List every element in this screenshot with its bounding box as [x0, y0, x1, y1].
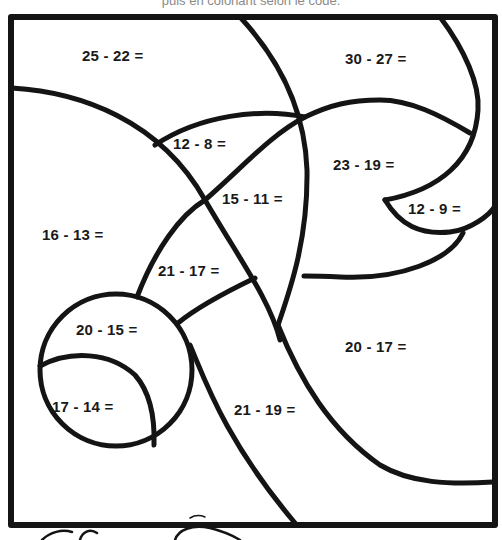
circle-ball	[40, 294, 192, 446]
equation-label: 25 - 22 =	[82, 47, 143, 64]
equation-label: 15 - 11 =	[222, 190, 283, 207]
equation-label: 20 - 15 =	[76, 321, 137, 338]
equation-label: 20 - 17 =	[345, 338, 406, 355]
swoosh-left	[190, 345, 295, 523]
equation-label: 21 - 17 =	[158, 262, 219, 279]
arc-right-loop	[385, 17, 478, 200]
arc-swirl-lower	[304, 233, 463, 277]
divider-21-17	[178, 278, 255, 323]
equation-label: 21 - 19 =	[234, 401, 295, 418]
equation-label: 30 - 27 =	[345, 50, 406, 67]
equation-label: 17 - 14 =	[52, 398, 113, 415]
equation-label: 12 - 9 =	[408, 200, 461, 217]
coloring-page-drawing	[0, 0, 502, 540]
equation-label: 16 - 13 =	[42, 226, 103, 243]
outer-frame	[11, 17, 495, 525]
equation-label: 12 - 8 =	[173, 135, 226, 152]
equation-label: 23 - 19 =	[333, 156, 394, 173]
